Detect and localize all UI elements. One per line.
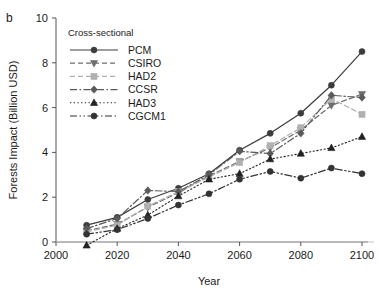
x-axis-ticks: 200020202040206020802100 [44, 242, 374, 261]
y-axis-ticks: 0246810 [36, 12, 56, 248]
legend-marker-pcm [91, 47, 97, 53]
series-pcm [84, 49, 365, 229]
legend-marker-had3 [90, 99, 97, 106]
data-point [237, 159, 243, 165]
data-point [298, 110, 304, 116]
data-point [114, 227, 120, 233]
series-had3 [83, 133, 366, 248]
y-tick-label: 2 [42, 191, 48, 203]
x-tick-label: 2000 [44, 249, 68, 261]
data-point [267, 130, 273, 136]
legend-label-had3: HAD3 [128, 97, 156, 109]
data-point [84, 231, 90, 237]
x-tick-label: 2060 [227, 249, 251, 261]
data-point [328, 103, 335, 110]
x-tick-label: 2040 [166, 249, 190, 261]
data-point [206, 191, 212, 197]
data-point [236, 170, 243, 177]
x-axis-label: Year [198, 275, 221, 287]
y-axis-label: Forests Impact (Billion USD) [7, 61, 19, 200]
legend-label-csiro: CSIRO [128, 57, 161, 69]
data-point [358, 133, 365, 140]
chart-canvas: 0246810200020202040206020802100YearFores… [0, 0, 382, 290]
data-point [298, 175, 304, 181]
data-point [267, 168, 273, 174]
series-cgcm1 [84, 165, 365, 237]
data-point [145, 203, 151, 209]
series-line [87, 137, 362, 246]
axes [56, 18, 368, 242]
y-tick-label: 10 [36, 12, 48, 24]
data-point [328, 82, 334, 88]
y-tick-label: 0 [42, 236, 48, 248]
data-point [145, 215, 151, 221]
data-point [145, 196, 151, 202]
panel-label: b [6, 11, 13, 25]
x-tick-label: 2100 [350, 249, 374, 261]
data-point [359, 171, 365, 177]
legend-label-had2: HAD2 [128, 70, 156, 82]
y-tick-label: 8 [42, 57, 48, 69]
x-tick-label: 2080 [289, 249, 313, 261]
data-point [175, 202, 181, 208]
data-point [267, 143, 273, 149]
data-point [237, 176, 243, 182]
series-line [87, 168, 362, 234]
data-point [359, 49, 365, 55]
y-tick-label: 6 [42, 102, 48, 114]
legend-marker-cgcm1 [91, 113, 97, 119]
data-point [359, 111, 365, 117]
y-tick-label: 4 [42, 146, 48, 158]
x-tick-label: 2020 [105, 249, 129, 261]
legend-marker-had2 [91, 73, 97, 79]
data-point [328, 144, 335, 151]
legend-label-ccsr: CCSR [128, 83, 158, 95]
legend-label-cgcm1: CGCM1 [128, 110, 166, 122]
series-had2 [84, 96, 365, 235]
legend-title: Cross-sectional [68, 27, 133, 38]
legend: Cross-sectionalPCMCSIROHAD2CCSRHAD3CGCM1 [68, 27, 166, 122]
forests-impact-chart: 0246810200020202040206020802100YearFores… [0, 0, 382, 290]
legend-label-pcm: PCM [128, 44, 151, 56]
data-point [328, 165, 334, 171]
legend-marker-ccsr [91, 86, 98, 94]
